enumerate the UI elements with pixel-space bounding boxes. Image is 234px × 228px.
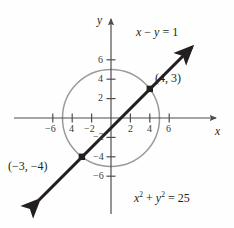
circle-eq-rhs: = 25 xyxy=(165,191,190,205)
point-label-lower: (−3, −4) xyxy=(8,160,48,172)
graph-canvas xyxy=(0,0,234,228)
y-tick-label-2: 2 xyxy=(98,93,103,103)
x-tick-label-neg4: 4 xyxy=(69,124,74,134)
circle-eq-plus: + xyxy=(143,191,156,205)
y-tick-label-neg6: −6 xyxy=(93,171,104,181)
y-tick-label-4: 4 xyxy=(98,74,103,84)
x-tick-label-2: 2 xyxy=(128,124,133,134)
y-tick-label-6: 6 xyxy=(98,55,103,65)
intersection-point-lower xyxy=(79,154,85,160)
point-label-upper: (4, 3) xyxy=(155,72,181,84)
x-axis-label: x xyxy=(215,126,220,138)
line-equation-label: x − y = 1 xyxy=(136,26,178,38)
y-tick-label-neg2: −2 xyxy=(93,132,104,142)
x-tick-label-neg6: −6 xyxy=(45,124,56,134)
y-tick-label-neg4: −4 xyxy=(93,152,104,162)
line-eq-minus: − xyxy=(141,25,154,39)
line-eq-rhs: = 1 xyxy=(159,25,178,39)
circle-equation-label: x2 + y2 = 25 xyxy=(134,192,190,204)
figure-container: x y −6 4 −2 2 4 6 6 4 2 −2 −4 −6 x − y =… xyxy=(0,0,234,228)
intersection-point-upper xyxy=(147,86,153,92)
x-tick-label-6: 6 xyxy=(166,124,171,134)
x-tick-label-4: 4 xyxy=(147,124,152,134)
y-axis-label: y xyxy=(97,15,102,27)
